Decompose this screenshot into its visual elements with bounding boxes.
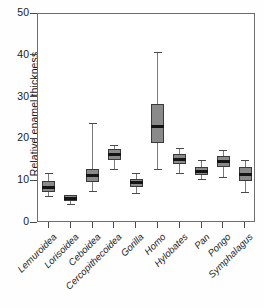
box-symphalagus: [239, 14, 252, 223]
whisker-cap-upper: [110, 145, 118, 146]
y-tick-mark: [30, 222, 37, 223]
y-tick-mark: [30, 54, 37, 55]
whisker-cap-upper: [198, 160, 206, 161]
whisker-cap-upper: [241, 160, 249, 161]
whisker-cap-lower: [241, 192, 249, 193]
median-line: [173, 158, 186, 161]
box-cercopithecoidea: [108, 14, 121, 223]
x-tick-mark: [179, 222, 180, 228]
box-homo: [151, 14, 164, 223]
x-tick-mark: [70, 222, 71, 228]
y-tick-mark: [30, 138, 37, 139]
whisker-cap-lower: [176, 173, 184, 174]
whisker-cap-lower: [45, 196, 53, 197]
x-tick-mark: [244, 222, 245, 228]
x-tick-mark: [113, 222, 114, 228]
y-tick-label: 30: [4, 90, 29, 102]
whisker-cap-lower: [219, 177, 227, 178]
median-line: [217, 160, 230, 163]
whisker-cap-upper: [132, 173, 140, 174]
whisker-cap-lower: [89, 191, 97, 192]
whisker-cap-lower: [154, 169, 162, 170]
whisker-cap-upper: [219, 150, 227, 151]
box-lemuroidea: [42, 14, 55, 223]
median-line: [239, 173, 252, 176]
median-line: [108, 153, 121, 156]
median-line: [86, 174, 99, 177]
whisker-cap-lower: [110, 169, 118, 170]
box-pongo: [217, 14, 230, 223]
whisker-cap-upper: [45, 173, 53, 174]
box-ceboidea: [86, 14, 99, 223]
whisker-cap-upper: [154, 52, 162, 53]
median-line: [195, 170, 208, 173]
y-tick-mark: [30, 13, 37, 14]
y-tick-label: 10: [4, 173, 29, 185]
median-line: [130, 181, 143, 184]
y-tick-label: 50: [4, 6, 29, 18]
x-tick-mark: [157, 222, 158, 228]
x-tick-label: Gorilla: [118, 231, 145, 258]
whisker-cap-upper: [176, 148, 184, 149]
whisker-cap-lower: [67, 204, 75, 205]
x-tick-mark: [92, 222, 93, 228]
x-tick-mark: [222, 222, 223, 228]
box-lorisoidea: [64, 14, 77, 223]
median-line: [64, 197, 77, 200]
box-gorilla: [130, 14, 143, 223]
median-line: [42, 186, 55, 189]
x-tick-mark: [48, 222, 49, 228]
whisker-cap-lower: [132, 193, 140, 194]
whisker-cap-lower: [198, 179, 206, 180]
box-pan: [195, 14, 208, 223]
y-tick-label: 20: [4, 131, 29, 143]
box-hylobates: [173, 14, 186, 223]
plot-area: [37, 13, 255, 222]
box-body: [151, 104, 164, 143]
y-tick-mark: [30, 96, 37, 97]
boxplot-chart: Relative enamel thickness 01020304050 Le…: [0, 0, 264, 308]
y-tick-label: 40: [4, 48, 29, 60]
y-tick-mark: [30, 180, 37, 181]
y-tick-label: 0: [4, 215, 29, 227]
whisker-cap-upper: [89, 123, 97, 124]
median-line: [151, 125, 164, 128]
x-tick-mark: [201, 222, 202, 228]
x-tick-mark: [135, 222, 136, 228]
